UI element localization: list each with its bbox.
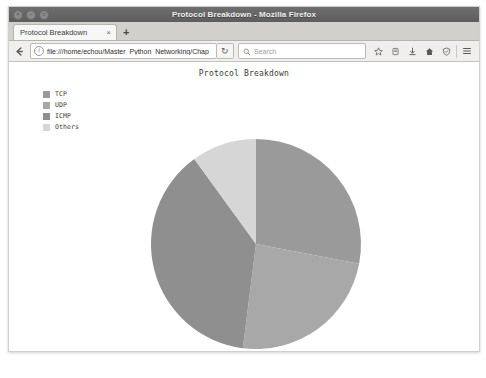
desktop-background: × − □ Protocol Breakdown - Mozilla Firef…	[0, 0, 486, 378]
back-arrow-icon[interactable]	[13, 45, 26, 58]
shield-icon[interactable]	[438, 43, 454, 59]
legend-label-others: Others	[55, 123, 79, 131]
url-input[interactable]: file:///home/echou/Master_Python_Network…	[47, 48, 213, 55]
pie-slice-others	[194, 139, 256, 244]
search-bar[interactable]: Search	[238, 43, 366, 59]
home-icon[interactable]	[421, 43, 437, 59]
tab-bar: Protocol Breakdown × +	[9, 22, 479, 41]
page-content: Protocol Breakdown TCP UDP ICMP Others	[9, 62, 479, 351]
pie-slice-udp	[243, 244, 359, 349]
reload-button[interactable]: ↻	[217, 43, 234, 59]
legend-swatch-icmp	[43, 113, 50, 120]
window-titlebar[interactable]: × − □ Protocol Breakdown - Mozilla Firef…	[9, 7, 479, 22]
minimize-window-button[interactable]: −	[26, 10, 36, 20]
pie-chart	[9, 62, 479, 351]
new-tab-button[interactable]: +	[123, 27, 129, 38]
pie-slice-icmp	[151, 159, 256, 348]
legend-swatch-udp	[43, 102, 50, 109]
close-tab-icon[interactable]: ×	[104, 29, 113, 37]
tab-protocol-breakdown[interactable]: Protocol Breakdown ×	[13, 24, 117, 40]
chart-legend: TCP UDP ICMP Others	[43, 90, 79, 131]
legend-label-tcp: TCP	[55, 90, 67, 98]
window-title: Protocol Breakdown - Mozilla Firefox	[9, 10, 479, 19]
url-bar[interactable]: i file:///home/echou/Master_Python_Netwo…	[30, 43, 217, 59]
legend-swatch-tcp	[43, 91, 50, 98]
search-icon	[243, 42, 251, 60]
tab-label: Protocol Breakdown	[20, 28, 104, 37]
legend-swatch-others	[43, 124, 50, 131]
legend-item-others: Others	[43, 123, 79, 131]
legend-item-udp: UDP	[43, 101, 79, 109]
maximize-window-button[interactable]: □	[39, 10, 49, 20]
navigation-toolbar: i file:///home/echou/Master_Python_Netwo…	[9, 41, 479, 62]
window-controls: × − □	[13, 10, 49, 20]
toolbar-divider	[456, 45, 457, 58]
pie-slice-tcp	[256, 139, 361, 264]
browser-window: × − □ Protocol Breakdown - Mozilla Firef…	[8, 6, 480, 352]
site-identity-icon[interactable]: i	[34, 46, 44, 56]
downloads-icon[interactable]	[404, 43, 420, 59]
search-input[interactable]: Search	[254, 48, 276, 55]
menu-hamburger-icon[interactable]	[459, 43, 475, 59]
chart-title: Protocol Breakdown	[9, 69, 479, 78]
reader-pocket-icon[interactable]	[387, 43, 403, 59]
legend-item-icmp: ICMP	[43, 112, 79, 120]
close-window-button[interactable]: ×	[13, 10, 23, 20]
legend-item-tcp: TCP	[43, 90, 79, 98]
legend-label-udp: UDP	[55, 101, 67, 109]
toolbar-icons	[370, 43, 475, 59]
bookmark-star-icon[interactable]	[370, 43, 386, 59]
legend-label-icmp: ICMP	[55, 112, 71, 120]
